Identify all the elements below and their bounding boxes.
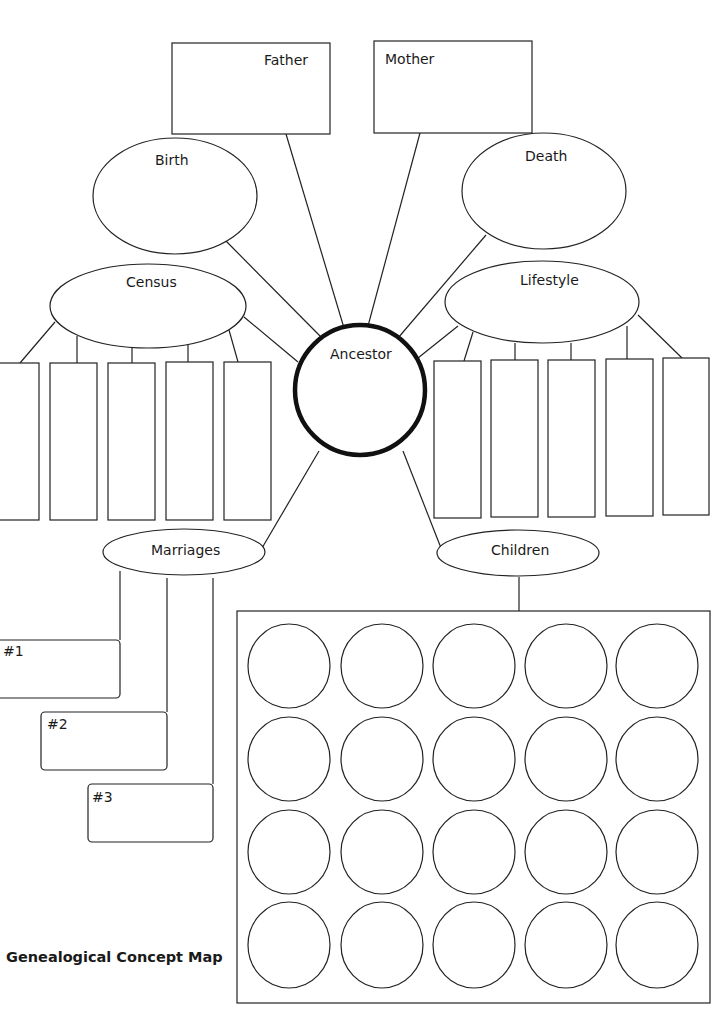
child-circle[interactable] — [341, 902, 423, 988]
census-box[interactable] — [108, 363, 155, 520]
census-box[interactable] — [224, 362, 271, 520]
child-circle[interactable] — [616, 902, 698, 988]
children-label: Children — [491, 542, 549, 558]
marriage-3-label: #3 — [92, 789, 113, 805]
death-label: Death — [525, 148, 567, 164]
child-circle[interactable] — [341, 717, 423, 801]
child-circle[interactable] — [248, 902, 330, 988]
child-circle[interactable] — [433, 717, 515, 801]
census-box[interactable] — [0, 363, 39, 520]
mother-label: Mother — [385, 51, 434, 67]
lifestyle-box[interactable] — [491, 360, 538, 517]
marriages-label: Marriages — [151, 542, 220, 558]
child-circle[interactable] — [433, 810, 515, 894]
ancestor-label: Ancestor — [330, 346, 392, 362]
child-circle[interactable] — [525, 624, 607, 708]
census-label: Census — [126, 274, 177, 290]
lifestyle-box[interactable] — [606, 359, 653, 516]
lifestyle-box[interactable] — [434, 361, 481, 518]
child-circle[interactable] — [525, 717, 607, 801]
lifestyle-box[interactable] — [548, 360, 595, 517]
child-circle[interactable] — [433, 902, 515, 988]
lifestyle-box[interactable] — [663, 358, 709, 515]
ancestor-circle[interactable] — [295, 325, 425, 455]
concept-map-canvas — [0, 0, 722, 1022]
father-label: Father — [264, 52, 308, 68]
child-circle[interactable] — [341, 624, 423, 708]
marriage-2-label: #2 — [47, 716, 68, 732]
census-box[interactable] — [50, 363, 97, 520]
child-circle[interactable] — [248, 810, 330, 894]
child-circle[interactable] — [248, 717, 330, 801]
child-circle[interactable] — [525, 902, 607, 988]
child-circle[interactable] — [525, 810, 607, 894]
child-circle[interactable] — [616, 717, 698, 801]
lifestyle-label: Lifestyle — [520, 272, 579, 288]
birth-label: Birth — [155, 152, 189, 168]
child-circle[interactable] — [248, 624, 330, 708]
page-title: Genealogical Concept Map — [6, 949, 223, 965]
child-circle[interactable] — [616, 624, 698, 708]
child-circle[interactable] — [341, 810, 423, 894]
census-box[interactable] — [166, 362, 213, 520]
child-circle[interactable] — [616, 810, 698, 894]
child-circle[interactable] — [433, 624, 515, 708]
census-boxes — [0, 362, 271, 520]
marriage-1-label: #1 — [3, 643, 24, 659]
lifestyle-boxes — [434, 358, 709, 518]
